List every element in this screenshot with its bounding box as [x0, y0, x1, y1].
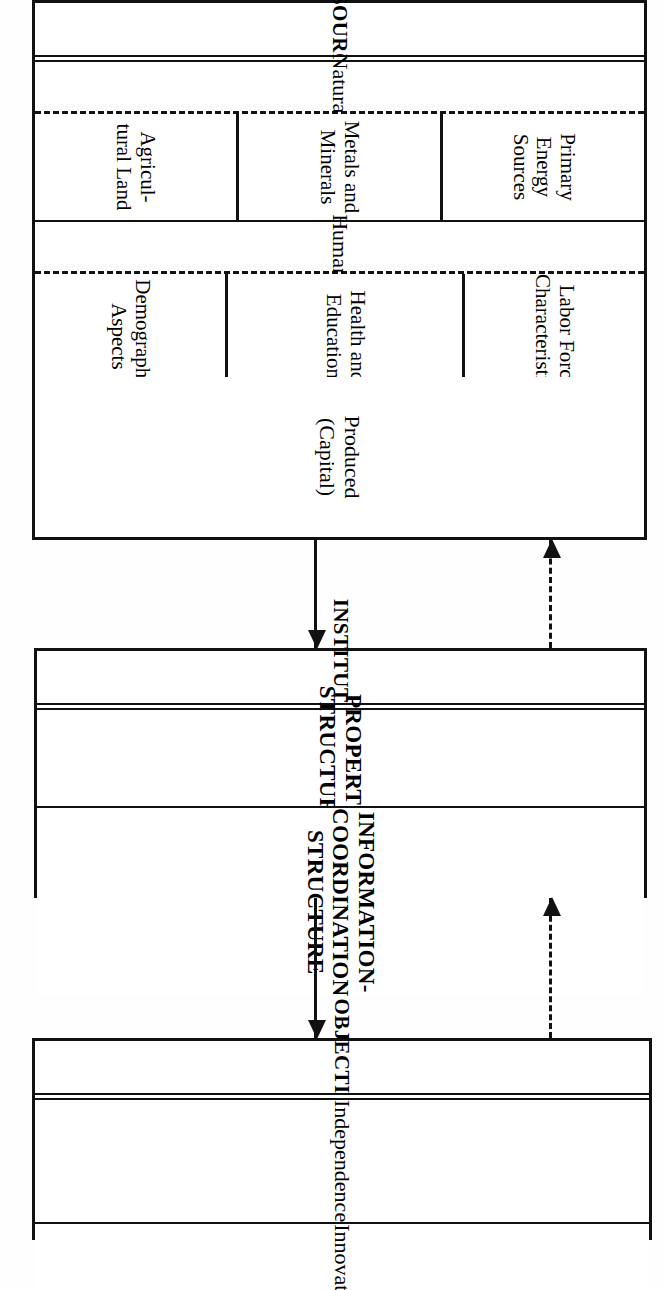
- objectives-group: OBJECTIVES Independence Innovation Conse…: [32, 1038, 652, 1240]
- diagram-canvas: RESOURCES Natural Primary Energy Sources…: [0, 0, 664, 1290]
- cell-label-text: Innovation: [330, 1224, 355, 1290]
- arrow-head: [543, 897, 561, 916]
- institutions-group: INSTITUTIONS PROPERTY STRUCTURE INFORMAT…: [34, 648, 647, 898]
- resources-band-human-label: Human: [35, 222, 644, 274]
- sub-label-text: Metals and Minerals: [316, 114, 363, 220]
- resources-band-produced-capital-label: Produced (Capital): [35, 377, 644, 537]
- resources-band-human: Human Labor Force Characteristics Health…: [35, 222, 644, 377]
- sub-label-text: Primary Energy Sources: [508, 114, 579, 220]
- arrow-head: [308, 1020, 326, 1039]
- arrow-head: [543, 539, 561, 558]
- arrow-head: [308, 630, 326, 649]
- arrow-shaft: [549, 898, 552, 1038]
- band-label-text: Produced (Capital): [315, 377, 364, 537]
- resources-sub-agricultural-land: Agricul- tural Land: [35, 114, 236, 220]
- resources-band-natural-label: Natural: [35, 62, 644, 114]
- band-label-text: Natural: [327, 54, 352, 120]
- resources-band-produced-capital: Produced (Capital): [35, 377, 644, 537]
- objectives-header-rule: [35, 1093, 649, 1100]
- resources-group: RESOURCES Natural Primary Energy Sources…: [32, 0, 647, 540]
- objectives-header: OBJECTIVES: [35, 1041, 649, 1093]
- arrow-shaft: [314, 898, 317, 1038]
- institutions-cell-property-structure: PROPERTY STRUCTURE: [37, 710, 644, 806]
- resources-header: RESOURCES: [35, 3, 644, 55]
- band-label-text: Human: [327, 214, 352, 279]
- resources-sub-primary-energy-sources: Primary Energy Sources: [440, 114, 644, 220]
- resources-band-natural: Natural Primary Energy Sources Metals an…: [35, 62, 644, 222]
- objectives-cell-innovation: Innovation: [35, 1222, 649, 1290]
- sub-label-text: Agricul- tural Land: [112, 114, 159, 220]
- objectives-cell-independence: Independence: [35, 1100, 649, 1222]
- resources-sub-metals-and-minerals: Metals and Minerals: [236, 114, 440, 220]
- resources-band-natural-subboxes: Primary Energy Sources Metals and Minera…: [35, 114, 644, 220]
- cell-label-text: Independence: [330, 1100, 355, 1222]
